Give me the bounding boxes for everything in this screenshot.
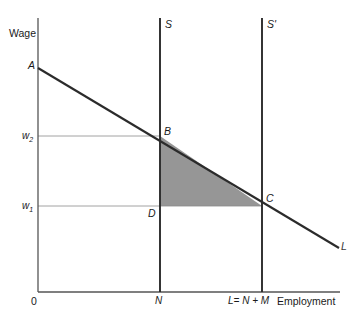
point-C-label: C — [266, 193, 274, 204]
wage-tick-w2: w2 — [22, 131, 33, 143]
employment-tick-L: L= N + M — [228, 296, 269, 306]
wage-tick-w2-subscript: 2 — [29, 136, 33, 143]
y-axis-label: Wage — [9, 28, 36, 39]
labor-demand-curve — [38, 68, 339, 248]
point-A-label: A — [28, 60, 35, 71]
supply-curve-S-label: S — [165, 19, 172, 30]
labor-market-immigration-surplus-diagram: Wage Employment 0 S S' L A B C D w2 w1 N… — [0, 0, 358, 322]
wage-tick-w1: w1 — [22, 201, 33, 213]
labor-demand-curve-label: L — [341, 241, 347, 252]
diagram-canvas — [0, 0, 358, 322]
point-B-label: B — [164, 126, 171, 137]
employment-tick-N: N — [155, 296, 162, 306]
origin-label: 0 — [31, 296, 37, 307]
supply-curve-S-prime-label: S' — [267, 19, 276, 30]
x-axis-label: Employment — [277, 296, 335, 307]
point-D-label: D — [148, 208, 156, 219]
wage-tick-w1-subscript: 1 — [29, 206, 33, 213]
